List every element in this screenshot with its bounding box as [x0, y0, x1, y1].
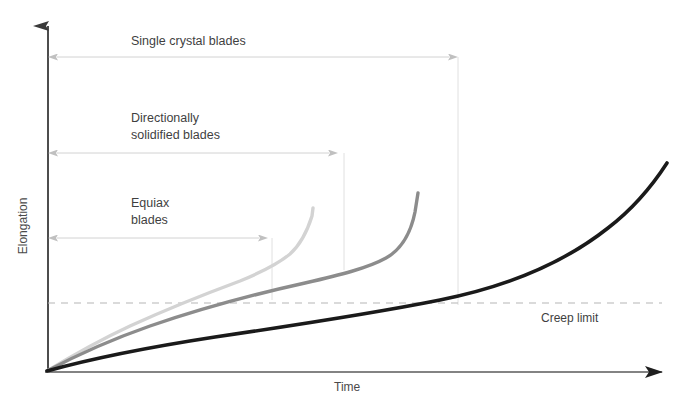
- creep-curve-chart: Single crystal blades Directionally soli…: [0, 0, 690, 410]
- annotation-label-directionally-solidified: Directionally solidified blades: [131, 110, 220, 143]
- chart-canvas: [0, 0, 690, 410]
- span-arrows-group: [57, 57, 458, 305]
- y-axis-label: Elongation: [16, 186, 32, 266]
- annotation-label-single-crystal: Single crystal blades: [131, 33, 246, 50]
- creep-limit-label: Creep limit: [541, 311, 598, 327]
- annotation-label-equiax: Equiax blades: [131, 195, 169, 228]
- x-axis-label: Time: [334, 380, 360, 396]
